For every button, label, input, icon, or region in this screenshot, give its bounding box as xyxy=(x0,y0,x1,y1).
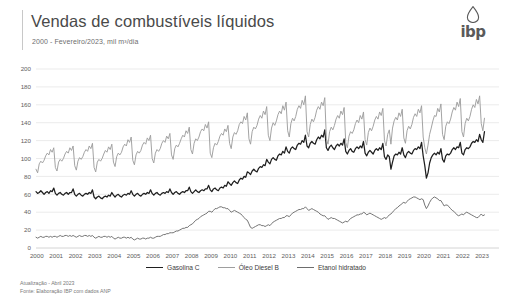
x-axis-tick: 2019 xyxy=(398,252,412,258)
legend-item[interactable]: Etanol hidratado xyxy=(297,264,366,271)
x-axis-tick: 2003 xyxy=(88,252,102,258)
x-axis-tick: 2001 xyxy=(49,252,63,258)
series-line xyxy=(36,130,484,199)
footnote-update: Atualização - Abril 2023 xyxy=(20,280,111,288)
x-axis-tick: 2007 xyxy=(165,252,179,258)
series-lines xyxy=(36,96,484,240)
x-axis-tick: 2013 xyxy=(282,252,296,258)
y-axis-tick: 40 xyxy=(24,208,31,215)
x-axis-tick: 2004 xyxy=(107,252,121,258)
ibp-logo-text: ibp xyxy=(450,23,496,41)
gridlines xyxy=(36,69,499,248)
x-axis-tick: 2014 xyxy=(301,252,315,258)
y-axis-tick: 180 xyxy=(21,83,32,90)
x-axis-labels: 2000200120022003200420052006200720082009… xyxy=(30,252,490,258)
chart-footnote: Atualização - Abril 2023 Fonte: Elaboraç… xyxy=(20,280,111,295)
x-axis-tick: 2021 xyxy=(436,252,450,258)
chart-page: Vendas de combustíveis líquidos 2000 - F… xyxy=(0,0,512,305)
x-axis-tick: 2015 xyxy=(320,252,334,258)
chart-legend: Gasolina CÓleo Diesel BEtanol hidratado xyxy=(0,261,512,273)
y-axis-tick: 80 xyxy=(24,173,31,180)
y-axis-tick: 60 xyxy=(24,191,31,198)
y-axis-tick: 0 xyxy=(28,244,32,251)
chart-header: Vendas de combustíveis líquidos 2000 - F… xyxy=(0,0,512,58)
chart-area: 020406080100120140160180200 200020012002… xyxy=(0,58,512,258)
page-title: Vendas de combustíveis líquidos xyxy=(31,12,274,31)
y-axis-tick: 120 xyxy=(21,137,32,144)
x-axis-tick: 2006 xyxy=(146,252,160,258)
x-axis-tick: 2012 xyxy=(262,252,276,258)
y-axis-tick: 20 xyxy=(24,226,31,233)
x-axis-tick: 2020 xyxy=(417,252,431,258)
legend-swatch xyxy=(146,267,163,268)
y-axis-labels: 020406080100120140160180200 xyxy=(21,65,32,251)
line-chart-svg: 020406080100120140160180200 200020012002… xyxy=(0,58,512,258)
series-line xyxy=(36,96,484,173)
legend-label: Óleo Diesel B xyxy=(239,264,279,271)
x-axis-tick: 2017 xyxy=(359,252,373,258)
x-axis-tick: 2011 xyxy=(243,252,257,258)
y-axis-tick: 100 xyxy=(21,155,32,162)
x-axis-tick: 2022 xyxy=(456,252,470,258)
x-axis-tick: 2009 xyxy=(204,252,218,258)
footnote-source: Fonte: Elaboração IBP com dados ANP xyxy=(20,288,111,296)
y-axis-tick: 140 xyxy=(21,119,32,126)
x-axis-tick: 2016 xyxy=(340,252,354,258)
legend-item[interactable]: Gasolina C xyxy=(146,264,200,271)
page-subtitle: 2000 - Fevereiro/2023, mil m³/dia xyxy=(32,38,138,45)
x-axis-tick: 2002 xyxy=(69,252,83,258)
legend-label: Gasolina C xyxy=(167,264,200,271)
title-accent-bar xyxy=(22,10,23,50)
ibp-logo: ibp xyxy=(450,6,496,48)
legend-item[interactable]: Óleo Diesel B xyxy=(218,264,279,271)
oil-drop-icon xyxy=(466,6,480,23)
x-axis-tick: 2008 xyxy=(185,252,199,258)
x-axis-tick: 2010 xyxy=(224,252,238,258)
x-axis-tick: 2000 xyxy=(30,252,44,258)
y-axis-tick: 160 xyxy=(21,101,32,108)
legend-swatch xyxy=(297,267,314,268)
series-line xyxy=(36,197,484,240)
x-axis-tick: 2018 xyxy=(378,252,392,258)
y-axis-tick: 200 xyxy=(21,65,32,72)
x-axis-tick: 2023 xyxy=(475,252,489,258)
x-axis-tick: 2005 xyxy=(127,252,141,258)
legend-swatch xyxy=(218,267,235,268)
legend-label: Etanol hidratado xyxy=(318,264,366,271)
